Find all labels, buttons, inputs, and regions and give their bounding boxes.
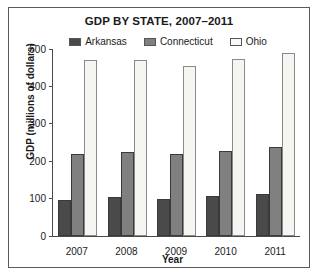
chart-legend: Arkansas Connecticut Ohio xyxy=(9,36,309,47)
bar-arkansas-2009 xyxy=(157,199,170,236)
y-tick-label: 0 xyxy=(40,231,46,242)
bar-ohio-2007 xyxy=(84,60,97,236)
x-axis-title: Year xyxy=(45,254,300,265)
bar-group xyxy=(108,49,147,236)
bar-ohio-2011 xyxy=(282,53,295,236)
bar-connecticut-2011 xyxy=(269,147,282,236)
y-tick-label: 200 xyxy=(29,156,46,167)
y-tick-label: 100 xyxy=(29,193,46,204)
bar-arkansas-2011 xyxy=(256,194,269,236)
bar-connecticut-2009 xyxy=(170,154,183,236)
legend-label-arkansas: Arkansas xyxy=(85,36,127,47)
y-tick-label: 500 xyxy=(29,44,46,55)
bar-arkansas-2007 xyxy=(58,200,71,236)
bar-groups xyxy=(53,49,300,236)
bar-group xyxy=(256,49,295,236)
y-tick-label: 400 xyxy=(29,81,46,92)
bar-group xyxy=(157,49,196,236)
y-tick-label: 300 xyxy=(29,118,46,129)
bar-arkansas-2010 xyxy=(206,196,219,236)
legend-swatch-arkansas xyxy=(69,38,81,46)
chart-title: GDP BY STATE, 2007–2011 xyxy=(9,15,309,27)
plot-area: 0100200300400500 xyxy=(52,49,300,237)
bar-ohio-2010 xyxy=(232,59,245,236)
legend-item-ohio: Ohio xyxy=(230,36,267,47)
bar-ohio-2009 xyxy=(183,66,196,236)
legend-label-ohio: Ohio xyxy=(246,36,267,47)
bar-group xyxy=(206,49,245,236)
bar-arkansas-2008 xyxy=(108,197,121,236)
legend-swatch-ohio xyxy=(230,38,242,46)
legend-item-arkansas: Arkansas xyxy=(69,36,127,47)
legend-label-connecticut: Connecticut xyxy=(160,36,213,47)
legend-swatch-connecticut xyxy=(144,38,156,46)
legend-item-connecticut: Connecticut xyxy=(144,36,213,47)
bar-connecticut-2010 xyxy=(219,151,232,236)
bar-connecticut-2008 xyxy=(121,152,134,236)
bar-connecticut-2007 xyxy=(71,154,84,236)
bar-ohio-2008 xyxy=(134,60,147,236)
bar-group xyxy=(58,49,97,236)
plot-wrapper: 0100200300400500 20072008200920102011 xyxy=(45,49,300,245)
chart-figure: GDP BY STATE, 2007–2011 Arkansas Connect… xyxy=(8,7,310,268)
